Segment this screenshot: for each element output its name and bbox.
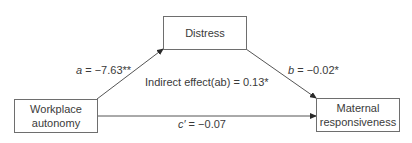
path-c-prime-symbol: c′ (178, 118, 186, 130)
node-maternal-line2: responsiveness (320, 115, 396, 129)
path-a-label: a = −7.63** (76, 64, 131, 76)
path-c-prime-label: c′ = −0.07 (178, 118, 226, 130)
path-b-value: = −0.02* (294, 64, 339, 76)
node-distress-label: Distress (185, 26, 225, 40)
node-workplace-autonomy: Workplace autonomy (14, 99, 98, 133)
node-maternal-line1: Maternal (320, 101, 396, 115)
node-distress: Distress (163, 16, 247, 50)
node-maternal-responsiveness: Maternal responsiveness (316, 98, 400, 132)
node-workplace-autonomy-line2: autonomy (30, 116, 82, 130)
node-workplace-autonomy-line1: Workplace (30, 102, 82, 116)
indirect-effect-text: Indirect effect(ab) = 0.13* (145, 76, 269, 88)
indirect-effect-label: Indirect effect(ab) = 0.13* (145, 76, 269, 88)
path-a-value: = −7.63** (82, 64, 131, 76)
path-c-prime-value: = −0.07 (186, 118, 226, 130)
path-b-label: b = −0.02* (288, 64, 339, 76)
